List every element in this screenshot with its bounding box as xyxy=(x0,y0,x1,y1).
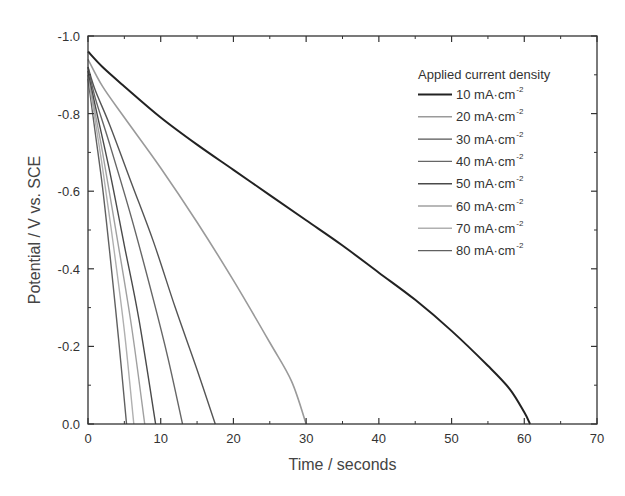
legend-item-10: 10 mA·cm-2 xyxy=(418,85,524,102)
legend-item-40: 40 mA·cm-2 xyxy=(418,152,524,169)
y-tick-label: -0.6 xyxy=(58,184,80,199)
legend-label: 40 mA·cm-2 xyxy=(456,152,524,169)
y-tick-label: -0.4 xyxy=(58,262,80,277)
y-tick-label: -0.8 xyxy=(58,107,80,122)
data-series xyxy=(88,52,530,424)
x-tick-label: 20 xyxy=(226,431,240,446)
x-tick-label: 70 xyxy=(590,431,604,446)
legend-item-30: 30 mA·cm-2 xyxy=(418,130,524,147)
legend-item-20: 20 mA·cm-2 xyxy=(418,107,524,124)
x-tick-label: 30 xyxy=(299,431,313,446)
series-line-40-mA xyxy=(88,67,183,424)
discharge-chart: 010203040506070-1.0-0.8-0.6-0.4-0.20.0 T… xyxy=(0,0,625,496)
legend-label: 50 mA·cm-2 xyxy=(456,174,524,191)
series-line-30-mA xyxy=(88,67,215,424)
legend-label: 70 mA·cm-2 xyxy=(456,219,524,236)
y-tick-label: -0.2 xyxy=(58,339,80,354)
legend-item-50: 50 mA·cm-2 xyxy=(418,174,524,191)
series-line-80-mA xyxy=(88,79,127,424)
legend-item-80: 80 mA·cm-2 xyxy=(418,241,524,258)
y-tick-label: 0.0 xyxy=(62,417,80,432)
legend-label: 10 mA·cm-2 xyxy=(456,85,524,102)
legend-label: 60 mA·cm-2 xyxy=(456,197,524,214)
y-tick-label: -1.0 xyxy=(58,29,80,44)
x-tick-label: 60 xyxy=(517,431,531,446)
x-axis-title: Time / seconds xyxy=(289,456,397,473)
x-tick-label: 50 xyxy=(444,431,458,446)
legend-label: 20 mA·cm-2 xyxy=(456,107,524,124)
x-tick-label: 10 xyxy=(153,431,167,446)
legend: Applied current density 10 mA·cm-220 mA·… xyxy=(418,67,551,258)
x-tick-label: 40 xyxy=(372,431,386,446)
legend-item-70: 70 mA·cm-2 xyxy=(418,219,524,236)
series-line-10-mA xyxy=(88,52,530,424)
legend-label: 30 mA·cm-2 xyxy=(456,130,524,147)
legend-title: Applied current density xyxy=(418,67,551,82)
plot-frame xyxy=(88,36,597,424)
y-axis-title: Potential / V vs. SCE xyxy=(26,156,43,305)
legend-label: 80 mA·cm-2 xyxy=(456,241,524,258)
legend-item-60: 60 mA·cm-2 xyxy=(418,197,524,214)
x-tick-label: 0 xyxy=(84,431,91,446)
